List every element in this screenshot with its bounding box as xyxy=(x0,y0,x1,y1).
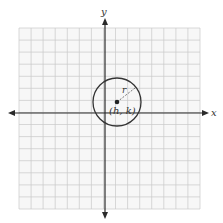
y-axis-label: y xyxy=(100,6,107,17)
coordinate-plane: x y r (h, k) xyxy=(0,0,223,223)
arrow-left-icon xyxy=(8,110,15,116)
center-label: (h, k) xyxy=(109,105,136,116)
center-point xyxy=(115,100,120,105)
radius-label: r xyxy=(122,85,127,95)
arrow-up-icon xyxy=(102,18,108,25)
arrow-right-icon xyxy=(202,110,209,116)
grid-background xyxy=(19,28,200,209)
x-axis-label: x xyxy=(211,107,217,118)
arrow-down-icon xyxy=(102,212,108,219)
